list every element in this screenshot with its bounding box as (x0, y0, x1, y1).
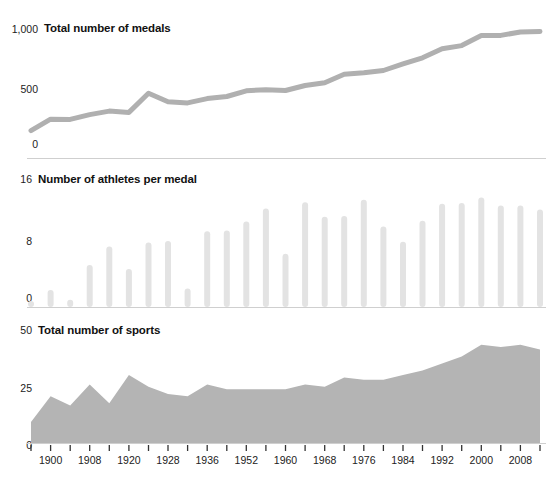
athletes-bar (87, 265, 93, 307)
athletes-bar (517, 205, 523, 307)
panel-athletes-per-medal: Number of athletes per medal 16 8 0 (0, 165, 546, 315)
panel-divider-1 (27, 158, 546, 159)
athletes-bar (498, 205, 504, 307)
athletes-bar (439, 204, 445, 307)
medals-line-series (31, 32, 540, 131)
athletes-bar (400, 242, 406, 307)
athletes-bar (263, 209, 269, 307)
x-tick-label: 1900 (39, 454, 62, 466)
olympics-multi-panel-figure: Total number of medals 1,000 500 0 Numbe… (0, 0, 546, 501)
athletes-bar (165, 241, 171, 307)
sports-area-series (31, 345, 540, 443)
athletes-bar (204, 231, 210, 307)
athletes-bar (185, 289, 191, 308)
x-tick-label: 1952 (235, 454, 258, 466)
panel-total-sports: Total number of sports 50 25 0 190019081… (0, 315, 546, 501)
x-tick-label: 1960 (274, 454, 297, 466)
athletes-bar (459, 203, 465, 307)
athletes-bar (478, 197, 484, 307)
athletes-bar (146, 243, 152, 308)
line-chart-medals (0, 0, 546, 165)
x-tick-label: 1928 (156, 454, 179, 466)
panel-divider-2 (27, 307, 546, 308)
athletes-bar (302, 202, 308, 307)
athletes-bar (224, 230, 230, 307)
x-tick-label: 1908 (78, 454, 101, 466)
athletes-bar (243, 222, 249, 308)
athletes-bar (283, 254, 289, 307)
x-tick-label: 1984 (391, 454, 414, 466)
panel-total-medals: Total number of medals 1,000 500 0 (0, 0, 546, 165)
athletes-bar (106, 247, 112, 308)
athletes-bar (48, 290, 54, 307)
athletes-bar (341, 216, 347, 307)
x-tick-label: 1936 (196, 454, 219, 466)
athletes-bar (361, 200, 367, 307)
x-tick-label: 2000 (470, 454, 493, 466)
x-tick-label: 1992 (430, 454, 453, 466)
x-tick-label: 1976 (352, 454, 375, 466)
athletes-bar (380, 226, 386, 307)
x-tick-label: 2008 (509, 454, 532, 466)
athletes-bar (126, 269, 132, 307)
bar-chart-athletes (0, 165, 546, 315)
athletes-bar (322, 217, 328, 307)
x-tick-label: 1920 (117, 454, 140, 466)
athletes-bar (67, 300, 73, 307)
athletes-bar (420, 221, 426, 307)
area-chart-sports (0, 315, 546, 501)
athletes-bar (537, 209, 543, 307)
x-tick-label: 1968 (313, 454, 336, 466)
